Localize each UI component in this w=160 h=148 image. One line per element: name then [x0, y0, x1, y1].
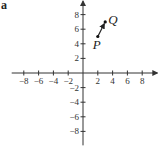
point-label-p: P [92, 37, 101, 52]
y-tick-label: 4 [75, 39, 80, 49]
point-q [104, 20, 107, 23]
x-tick-label: 4 [110, 76, 115, 86]
y-tick-label: −8 [69, 126, 79, 136]
x-tick-label: 2 [96, 76, 101, 86]
x-tick-label: −8 [19, 76, 29, 86]
y-tick-label: −4 [69, 97, 79, 107]
y-tick-label: 2 [75, 53, 80, 63]
x-tick-label: 6 [125, 76, 130, 86]
x-tick-label: −6 [34, 76, 44, 86]
x-tick-label: −4 [49, 76, 59, 86]
y-tick-label: 8 [75, 10, 80, 20]
vector-pq [98, 24, 104, 37]
y-tick-label: −2 [69, 83, 79, 93]
point-label-q: Q [108, 12, 118, 27]
y-tick-label: −6 [69, 112, 79, 122]
points: PQ [92, 12, 118, 52]
vectors [98, 24, 104, 37]
axes [12, 1, 158, 145]
x-tick-label: 8 [140, 76, 145, 86]
y-tick-label: 6 [75, 24, 80, 34]
coordinate-plane: −8−6−4−22468−8−6−4−22468 PQ [0, 0, 160, 148]
